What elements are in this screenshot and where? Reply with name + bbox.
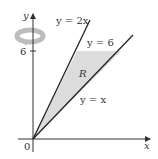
x-axis-label: x xyxy=(144,140,150,151)
rotation-arrow-icon xyxy=(17,30,43,46)
y-tick-label-6: 6 xyxy=(20,46,26,57)
region-label-r: R xyxy=(78,68,87,79)
label-y-equals-6: y = 6 xyxy=(86,37,114,48)
line-y-equals-x xyxy=(33,35,133,139)
origin-label: 0 xyxy=(24,141,30,152)
diagram-canvas: y x 0 6 y = 2x y = 6 R y = x xyxy=(0,0,158,159)
label-y-equals-x: y = x xyxy=(79,94,106,105)
y-axis-label: y xyxy=(22,10,29,21)
label-y-equals-2x: y = 2x xyxy=(55,15,89,26)
